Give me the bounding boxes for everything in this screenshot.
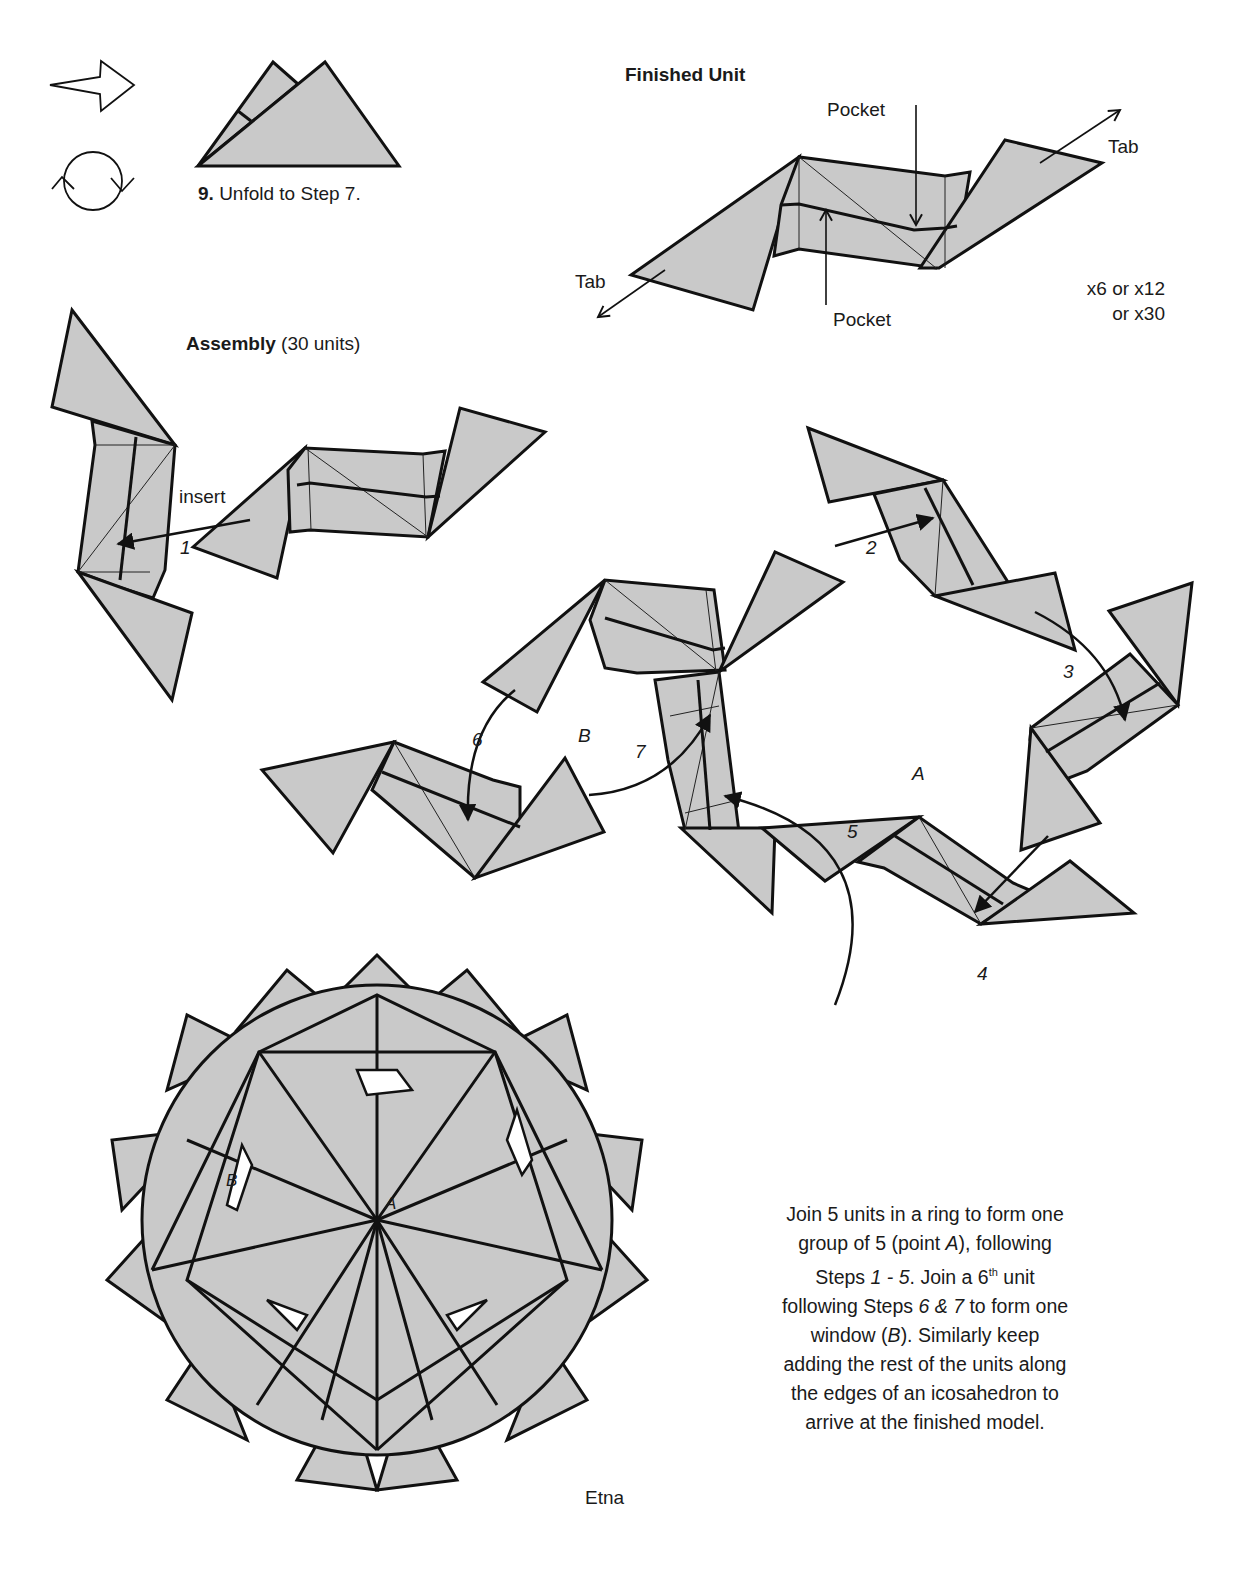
superscript: th (989, 1266, 998, 1278)
tab-label-right: Tab (1108, 137, 1139, 156)
instructions-line-4: following Steps 6 & 7 to form one (760, 1292, 1090, 1321)
text: ), following (959, 1232, 1052, 1254)
step9-caption: 9. Unfold to Step 7. (198, 184, 361, 203)
step-label-5: 5 (847, 822, 858, 841)
push-arrow-icon (50, 61, 134, 111)
text: group of 5 (point (798, 1232, 945, 1254)
instructions-line-2: group of 5 (point A), following (760, 1229, 1090, 1258)
text: Steps (815, 1266, 870, 1288)
assembly-unit-ring-center (655, 672, 775, 913)
text: to form one (964, 1295, 1068, 1317)
instructions-line-3: Steps 1 - 5. Join a 6th unit (760, 1258, 1090, 1292)
finished-unit-title: Finished Unit (625, 65, 745, 84)
step-label-3: 3 (1063, 662, 1074, 681)
point-a-label: A (912, 764, 925, 783)
instructions-line-7: the edges of an icosahedron to (760, 1379, 1090, 1408)
step-label-4: 4 (977, 964, 988, 983)
instructions-line-5: window (B). Similarly keep (760, 1321, 1090, 1350)
multiplier-line1: x6 or x12 (1063, 276, 1165, 301)
pocket-label-top: Pocket (827, 100, 885, 119)
step-label-6: 6 (472, 730, 483, 749)
point-b-label: B (578, 726, 591, 745)
model-point-b-label: B (226, 1172, 237, 1189)
instructions-line-8: arrive at the finished model. (760, 1408, 1090, 1437)
assembly-unit-left (52, 310, 192, 700)
model-name: Etna (585, 1488, 624, 1507)
step-label-1: 1 (180, 538, 191, 557)
step9-diagram (198, 62, 399, 166)
etna-model (107, 955, 647, 1490)
step-ref: 6 & 7 (918, 1295, 964, 1317)
instructions-line-1: Join 5 units in a ring to form one (760, 1200, 1090, 1229)
step9-number: 9. (198, 183, 214, 204)
finished-unit-diagram (598, 105, 1120, 317)
step-label-7: 7 (635, 742, 646, 761)
step-ref: 1 - 5 (871, 1266, 910, 1288)
assembly-subtitle: (30 units) (281, 333, 360, 354)
point-ref: B (888, 1324, 901, 1346)
pocket-label-bottom: Pocket (833, 310, 891, 329)
assembly-unit-ring-lower-left (262, 742, 604, 878)
text: . Join a 6 (910, 1266, 989, 1288)
unit-multiplier: x6 or x12 or x30 (1063, 276, 1165, 326)
instructions-line-6: adding the rest of the units along (760, 1350, 1090, 1379)
rotate-icon (52, 152, 134, 210)
assembly-title: Assembly (30 units) (186, 334, 360, 353)
tab-label-left: Tab (575, 272, 606, 291)
multiplier-line2: or x30 (1063, 301, 1165, 326)
assembly-unit-ring-bottom (762, 817, 1134, 924)
model-point-a-label: A (385, 1195, 396, 1212)
point-ref: A (946, 1232, 959, 1254)
insert-label: insert (179, 487, 225, 506)
assembly-instructions: Join 5 units in a ring to form one group… (760, 1200, 1090, 1437)
text: following Steps (782, 1295, 919, 1317)
assembly-unit-ring-top-right (808, 428, 1075, 650)
assembly-title-bold: Assembly (186, 333, 276, 354)
step9-text: Unfold to Step 7. (219, 183, 361, 204)
step-label-2: 2 (866, 538, 877, 557)
text: window ( (811, 1324, 888, 1346)
text: ). Similarly keep (901, 1324, 1040, 1346)
text: unit (998, 1266, 1035, 1288)
